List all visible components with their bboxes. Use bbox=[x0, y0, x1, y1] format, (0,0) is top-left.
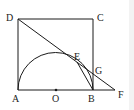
label-o: O bbox=[52, 93, 59, 104]
label-a: A bbox=[12, 93, 20, 104]
geometry-figure: D C A O B E G F bbox=[0, 0, 134, 110]
square-abcd bbox=[18, 19, 93, 90]
label-d: D bbox=[6, 12, 13, 23]
label-e: E bbox=[74, 51, 80, 62]
label-f: F bbox=[118, 89, 124, 100]
label-g: G bbox=[95, 65, 102, 76]
center-point-o bbox=[55, 89, 58, 92]
label-c: C bbox=[97, 12, 104, 23]
label-b: B bbox=[88, 93, 95, 104]
